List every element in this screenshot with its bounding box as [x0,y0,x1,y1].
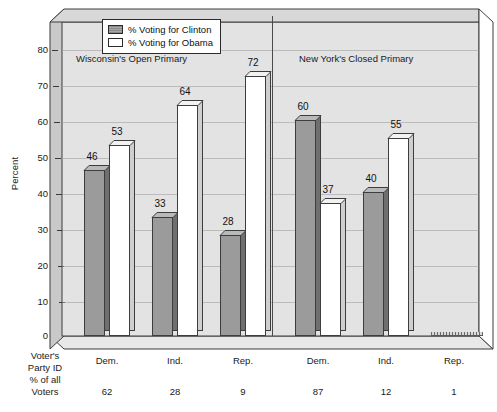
bar-side-face [409,133,414,331]
bar-wisconsin-dem-obama [109,140,130,336]
bar-front-face [320,203,341,336]
share-value-newyork-dem: 87 [288,386,348,397]
bottom-label-table: Voter's Party ID % of all Voters Dem. In… [0,344,497,412]
category-label-newyork-ind: Ind. [356,355,416,366]
bar-front-face [84,170,105,336]
row-header-party-id: Voter's Party ID [14,350,76,373]
bar-value-label: 46 [78,151,106,162]
row-header-party-id-line2: Party ID [28,362,62,373]
y-tick-label-80: 80 [22,44,48,55]
y-tick-mark-50 [55,158,61,159]
y-tick-label-60: 60 [22,116,48,127]
bar-front-face [295,120,316,336]
bar-side-face [130,140,135,331]
legend-label-obama: % Voting for Obama [128,37,213,48]
bar-front-face [152,217,173,336]
bar-front-face [363,192,384,336]
plot-area: Wisconsin's Open Primary New York's Clos… [62,22,479,336]
y-tick-label-20: 20 [22,260,48,271]
bar-newyork-rep-zero [431,332,483,336]
row-header-share-line2: Voters [32,386,59,397]
bar-newyork-ind-obama [388,133,409,336]
y-tick-label-70: 70 [22,80,48,91]
legend-item-obama: % Voting for Obama [108,36,213,49]
category-label-newyork-rep: Rep. [424,355,484,366]
y-tick-mark-80 [52,50,58,51]
bar-value-label: 72 [239,57,267,68]
bar-value-label: 60 [289,101,317,112]
bar-wisconsin-rep-clinton [220,230,241,336]
legend-label-clinton: % Voting for Clinton [128,24,211,35]
bar-value-label: 55 [382,119,410,130]
bar-newyork-dem-clinton [295,115,316,336]
row-header-party-id-line1: Voter's [31,350,60,361]
category-label-wisconsin-dem: Dem. [77,355,137,366]
bar-newyork-dem-obama [320,198,341,336]
share-value-newyork-ind: 12 [356,386,416,397]
bar-wisconsin-dem-clinton [84,165,105,336]
bar-wisconsin-ind-clinton [152,212,173,336]
bar-value-label: 64 [171,86,199,97]
group-title-wisconsin: Wisconsin's Open Primary [76,53,187,64]
bar-wisconsin-rep-obama [245,71,266,336]
row-header-share: % of all Voters [14,374,76,397]
bar-side-face [266,71,271,331]
y-tick-label-50: 50 [22,152,48,163]
bar-front-face [177,105,198,336]
y-tick-mark-70 [53,86,59,87]
bar-front-face [109,145,130,336]
share-value-newyork-rep: 1 [424,386,484,397]
bar-side-face [198,100,203,331]
bar-front-face [220,235,241,336]
bar-newyork-ind-clinton [363,187,384,336]
y-tick-label-30: 30 [22,224,48,235]
bar-value-label: 28 [214,216,242,227]
category-label-wisconsin-ind: Ind. [145,355,205,366]
y-tick-label-40: 40 [22,188,48,199]
category-label-wisconsin-rep: Rep. [213,355,273,366]
legend-swatch-clinton-icon [108,25,123,34]
bar-value-label: 33 [146,198,174,209]
group-title-newyork: New York's Closed Primary [299,53,413,64]
share-value-wisconsin-rep: 9 [213,386,273,397]
category-label-newyork-dem: Dem. [288,355,348,366]
y-tick-mark-60 [54,122,60,123]
row-header-share-line1: % of all [29,374,60,385]
bar-front-face [388,138,409,336]
bar-value-label: 53 [103,126,131,137]
y-tick-label-0: 0 [22,330,48,341]
legend-item-clinton: % Voting for Clinton [108,23,213,36]
y-axis-title: Percent [9,139,20,209]
bar-front-face [245,76,266,336]
legend-swatch-obama-icon [108,38,123,47]
legend: % Voting for Clinton % Voting for Obama [102,19,221,54]
bar-side-face [341,198,346,331]
y-tick-label-10: 10 [22,296,48,307]
share-value-wisconsin-ind: 28 [145,386,205,397]
share-value-wisconsin-dem: 62 [77,386,137,397]
bar-value-label: 37 [314,184,342,195]
bar-wisconsin-ind-obama [177,100,198,336]
bar-chart: Percent 80 70 60 50 40 30 20 10 0 Wiscon… [0,0,497,412]
group-divider [272,16,273,336]
bar-value-label: 40 [357,173,385,184]
